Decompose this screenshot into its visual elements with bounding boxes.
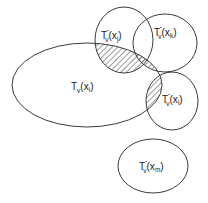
label-tv-xi: Tv(xi): [71, 81, 94, 94]
hatched-intersections: [95, 7, 198, 130]
label-tv-xk: Tˆv(xk): [154, 26, 176, 40]
set-tv-xk-circle: [133, 14, 197, 72]
label-tv-xl: Tˆv(xl): [162, 93, 183, 107]
label-tv-xj: Tˆv(xj): [101, 29, 122, 43]
label-tv-xm: Tˆv(xm): [139, 160, 164, 174]
venn-diagram: Tˆv(xj) Tˆv(xk) Tv(xi) Tˆv(xl) Tˆv(xm): [0, 0, 208, 203]
